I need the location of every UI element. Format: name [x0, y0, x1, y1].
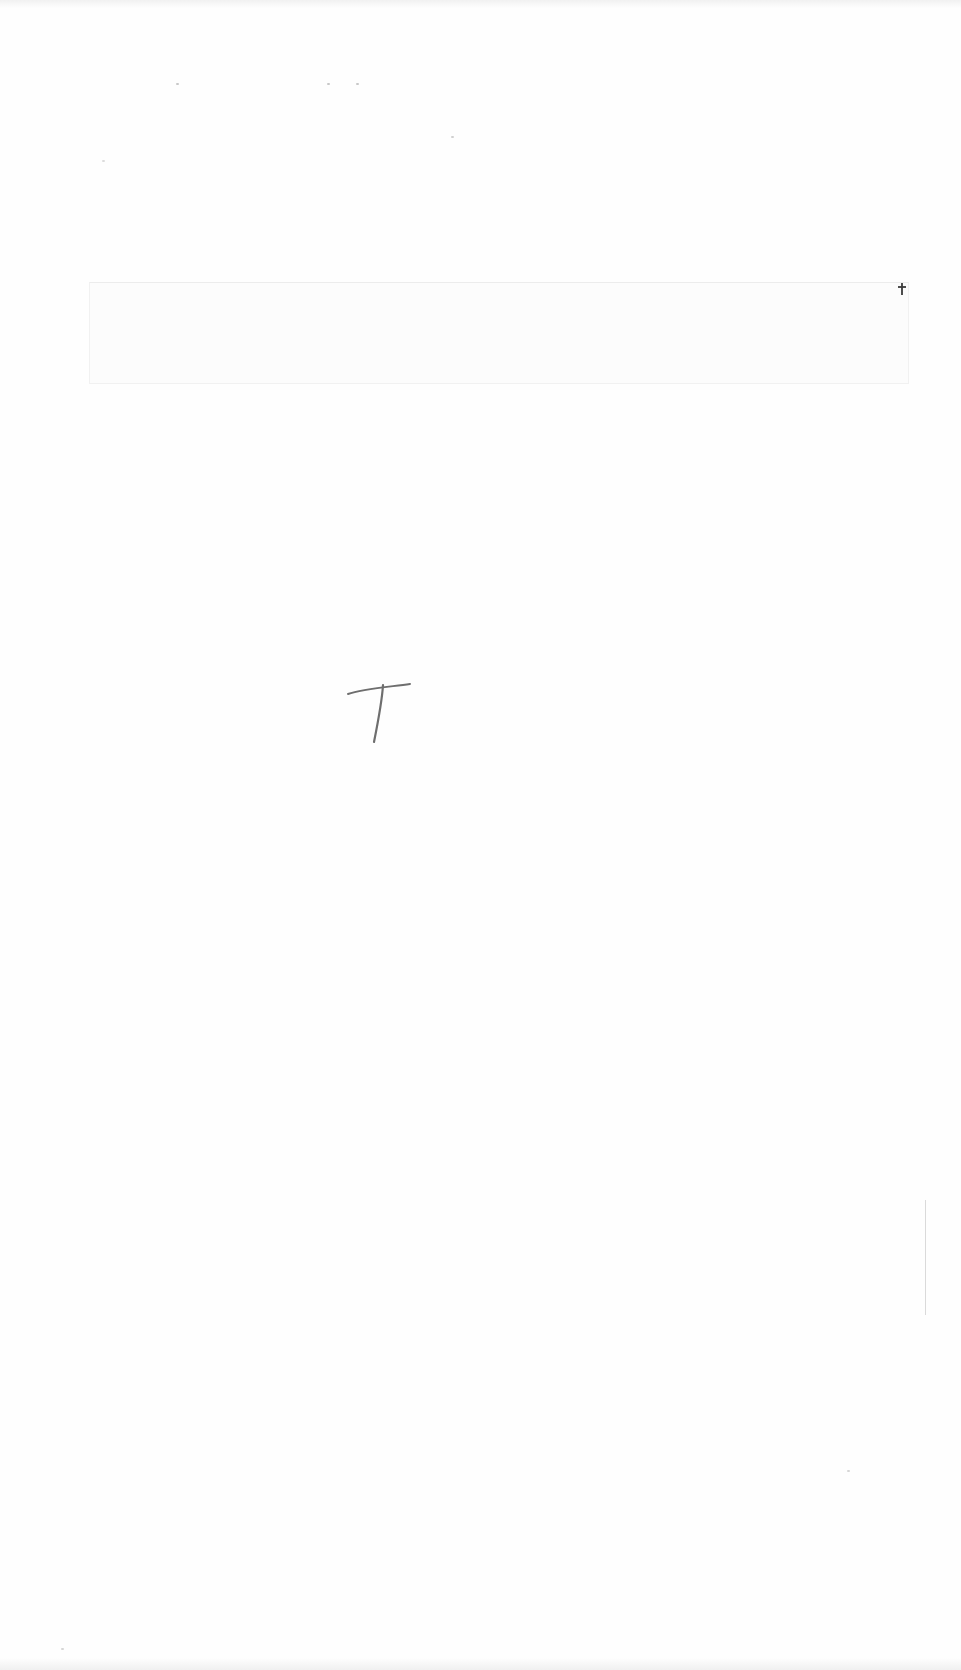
- scan-speck: [356, 83, 359, 85]
- scan-speck: [176, 83, 179, 85]
- scanned-page: T: [0, 0, 961, 1670]
- faint-vertical-line: [925, 1200, 926, 1315]
- scan-speck: [847, 1470, 850, 1472]
- scan-speck: [102, 160, 105, 162]
- scan-edge-top: [0, 0, 961, 8]
- scan-speck: [327, 83, 330, 85]
- scan-speck: [61, 1648, 64, 1650]
- cross-mark-icon: [897, 282, 907, 296]
- scan-speck: [451, 136, 454, 138]
- handwritten-letter-t: T: [340, 672, 420, 752]
- faint-form-box: [89, 282, 909, 384]
- scan-edge-bottom: [0, 1658, 961, 1670]
